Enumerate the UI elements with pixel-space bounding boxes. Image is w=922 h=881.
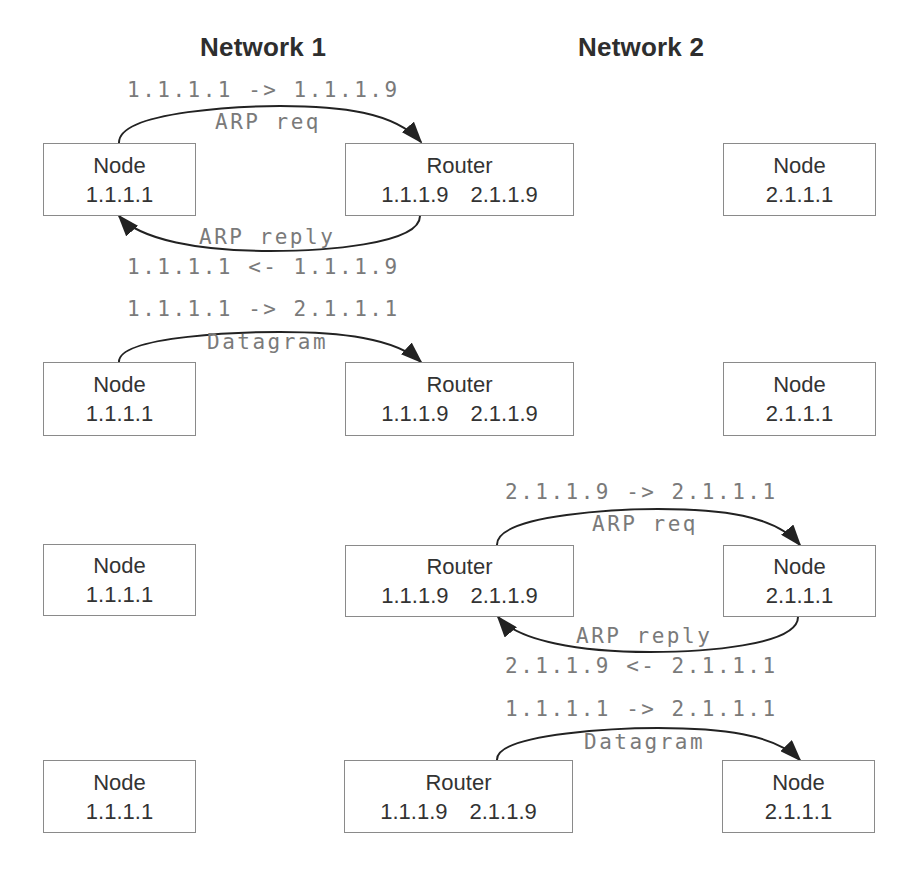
step2-top-address-label: 1.1.1.1 -> 2.1.1.1 — [127, 297, 400, 321]
step4-router: Router 1.1.1.92.1.1.9 — [344, 760, 573, 833]
router-label: Router — [425, 768, 491, 797]
router-address-net1: 1.1.1.9 — [381, 581, 448, 610]
node-label: Node — [93, 370, 146, 399]
step3-bottom-address-label: 2.1.1.9 <- 2.1.1.1 — [505, 654, 778, 678]
node-address: 1.1.1.1 — [86, 580, 153, 609]
node-label: Node — [93, 551, 146, 580]
step4-top-message-label: Datagram — [584, 730, 705, 754]
step2-right-node: Node 2.1.1.1 — [723, 362, 876, 436]
router-label: Router — [426, 151, 492, 180]
router-address-net2: 2.1.1.9 — [471, 581, 538, 610]
node-label: Node — [773, 552, 826, 581]
node-label: Node — [93, 768, 146, 797]
step1-right-node: Node 2.1.1.1 — [723, 143, 876, 216]
step3-top-message-label: ARP req — [592, 512, 698, 536]
step3-bottom-message-label: ARP reply — [576, 624, 712, 648]
node-label: Node — [773, 151, 826, 180]
step4-right-node: Node 2.1.1.1 — [722, 760, 875, 833]
step1-router: Router 1.1.1.92.1.1.9 — [345, 143, 574, 216]
node-address: 1.1.1.1 — [86, 797, 153, 826]
router-address-net2: 2.1.1.9 — [470, 797, 537, 826]
node-address: 1.1.1.1 — [86, 399, 153, 428]
node-label: Node — [772, 768, 825, 797]
node-address: 1.1.1.1 — [86, 180, 153, 209]
router-label: Router — [426, 370, 492, 399]
router-address-net1: 1.1.1.9 — [380, 797, 447, 826]
step3-router: Router 1.1.1.92.1.1.9 — [345, 545, 574, 617]
step3-left-node: Node 1.1.1.1 — [43, 544, 196, 616]
step1-top-message-label: ARP req — [215, 110, 321, 134]
node-address: 2.1.1.1 — [766, 399, 833, 428]
step2-router: Router 1.1.1.92.1.1.9 — [345, 362, 574, 436]
arrows-layer — [0, 0, 922, 881]
node-label: Node — [773, 370, 826, 399]
step2-top-message-label: Datagram — [207, 330, 328, 354]
step1-bottom-address-label: 1.1.1.1 <- 1.1.1.9 — [127, 255, 400, 279]
node-address: 2.1.1.1 — [766, 180, 833, 209]
step3-top-address-label: 2.1.1.9 -> 2.1.1.1 — [505, 480, 778, 504]
node-address: 2.1.1.1 — [765, 797, 832, 826]
router-address-net2: 2.1.1.9 — [471, 180, 538, 209]
step4-left-node: Node 1.1.1.1 — [43, 760, 196, 833]
step1-left-node: Node 1.1.1.1 — [43, 143, 196, 216]
router-address-net1: 1.1.1.9 — [381, 180, 448, 209]
router-address-net2: 2.1.1.9 — [471, 399, 538, 428]
router-address-net1: 1.1.1.9 — [381, 399, 448, 428]
step3-right-node: Node 2.1.1.1 — [723, 545, 876, 617]
step4-top-address-label: 1.1.1.1 -> 2.1.1.1 — [505, 697, 778, 721]
step2-left-node: Node 1.1.1.1 — [43, 362, 196, 436]
step1-bottom-message-label: ARP reply — [199, 225, 335, 249]
node-label: Node — [93, 151, 146, 180]
node-address: 2.1.1.1 — [766, 581, 833, 610]
network-2-heading: Network 2 — [578, 32, 704, 63]
step1-top-address-label: 1.1.1.1 -> 1.1.1.9 — [127, 78, 400, 102]
router-label: Router — [426, 552, 492, 581]
network-1-heading: Network 1 — [200, 32, 326, 63]
